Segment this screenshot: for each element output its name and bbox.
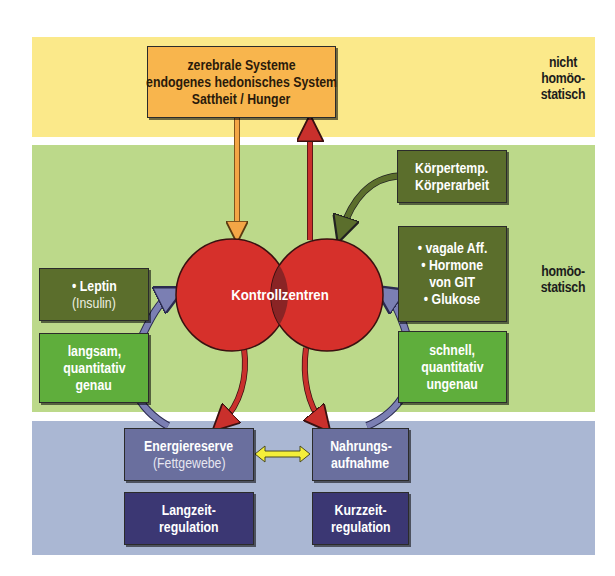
label-line: homöo- bbox=[534, 263, 592, 279]
label-line: nicht bbox=[534, 54, 592, 70]
label-line: statisch bbox=[534, 279, 592, 295]
energy-intake-double-arrow bbox=[255, 446, 310, 462]
control-centers-label: Kontrollzentren bbox=[214, 286, 346, 303]
box-line: (Insulin) bbox=[72, 295, 116, 312]
cerebral-line-1: zerebrale Systeme bbox=[187, 57, 295, 74]
non-homeostatic-label: nicht homöo- statisch bbox=[534, 54, 592, 102]
box-line: • Hormone bbox=[422, 257, 484, 274]
box-line: ungenau bbox=[427, 376, 478, 393]
box-line: Energiereserve bbox=[144, 438, 233, 455]
box-line: aufnahme bbox=[331, 455, 389, 472]
box-line: Langzeit- bbox=[162, 502, 216, 519]
label-line: statisch bbox=[534, 86, 592, 102]
cerebral-systems-box: zerebrale Systeme endogenes hedonisches … bbox=[147, 46, 336, 118]
box-line: • Glukose bbox=[424, 291, 480, 308]
box-line: Kurzzeit- bbox=[334, 502, 386, 519]
box-line: Nahrungs- bbox=[330, 438, 392, 455]
box-line: schnell, bbox=[430, 342, 476, 359]
box-line: genau bbox=[76, 377, 112, 394]
slow-regulation-box: langsam, quantitativ genau bbox=[39, 333, 149, 403]
box-line: (Fettgewebe) bbox=[153, 455, 226, 472]
box-line: • vagale Aff. bbox=[418, 240, 488, 257]
box-line: quantitativ bbox=[421, 359, 483, 376]
box-line: von GIT bbox=[430, 274, 476, 291]
box-line: Körperarbeit bbox=[415, 177, 489, 194]
box-line: quantitativ bbox=[63, 360, 125, 377]
energy-reserve-box: Energiereserve (Fettgewebe) bbox=[124, 428, 254, 481]
box-line: • Leptin bbox=[72, 278, 117, 295]
long-term-regulation-box: Langzeit- regulation bbox=[124, 492, 254, 545]
fast-regulation-box: schnell, quantitativ ungenau bbox=[398, 331, 507, 403]
box-line: regulation bbox=[159, 519, 219, 536]
food-intake-box: Nahrungs- aufnahme bbox=[312, 428, 409, 481]
homeostatic-label: homöo- statisch bbox=[534, 263, 592, 295]
gut-signals-box: • vagale Aff. • Hormone von GIT • Glukos… bbox=[398, 226, 507, 322]
box-line: regulation bbox=[331, 519, 391, 536]
body-temperature-box: Körpertemp. Körperarbeit bbox=[397, 150, 507, 203]
leptin-box: • Leptin (Insulin) bbox=[39, 268, 149, 321]
box-line: Körpertemp. bbox=[415, 160, 488, 177]
cerebral-line-3: Sattheit / Hunger bbox=[192, 91, 291, 108]
label-line: homöo- bbox=[534, 70, 592, 86]
short-term-regulation-box: Kurzzeit- regulation bbox=[312, 492, 409, 545]
box-line: langsam, bbox=[67, 343, 120, 360]
cerebral-line-2: endogenes hedonisches System bbox=[146, 74, 337, 91]
